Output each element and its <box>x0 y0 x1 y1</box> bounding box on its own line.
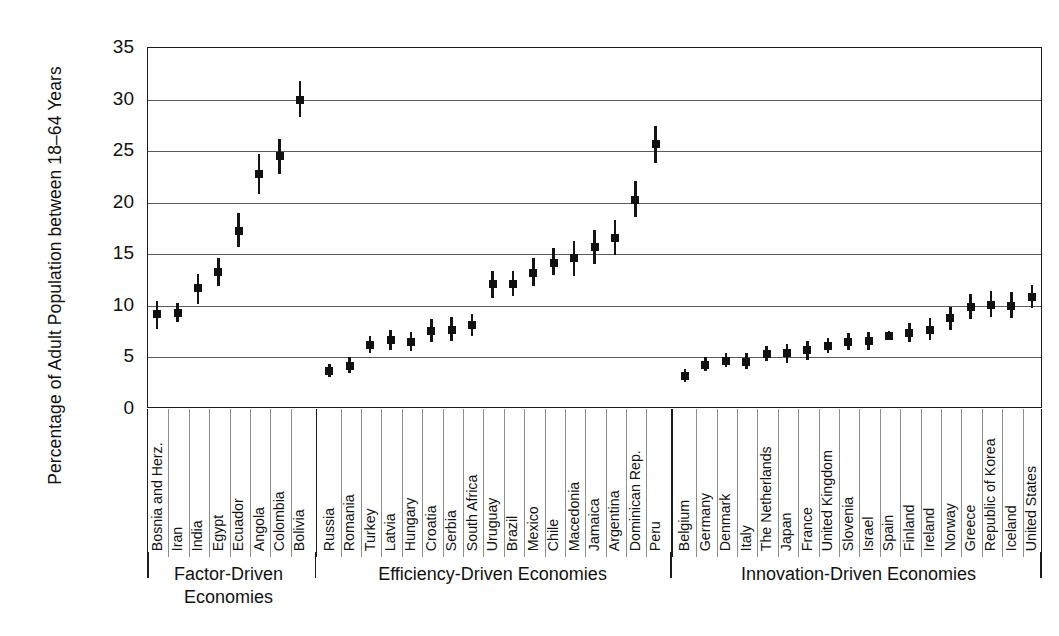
data-marks-layer <box>147 47 1042 408</box>
category-label-band: Bosnia and Herz.IranIndiaEgyptEcuadorAng… <box>147 409 1042 557</box>
group-boundary-tick <box>670 552 672 578</box>
axis-boundary-tick <box>147 552 149 578</box>
data-point-marker <box>550 259 558 267</box>
y-tick-label: 25 <box>82 139 134 161</box>
data-point-marker <box>1007 302 1015 310</box>
category-label: Turkey <box>362 508 376 551</box>
category-label: India <box>190 520 204 551</box>
data-point-marker <box>967 303 975 311</box>
y-tick-label: 35 <box>82 36 134 58</box>
category-label: Macedonia <box>566 482 580 551</box>
data-point-marker <box>631 196 639 204</box>
category-label: Finland <box>902 504 916 551</box>
data-point-marker <box>235 227 243 235</box>
category-label: Angola <box>251 507 265 551</box>
category-label: Slovenia <box>840 497 854 551</box>
category-label: Romania <box>342 494 356 551</box>
category-label: Egypt <box>211 515 225 551</box>
category-label: Dominican Rep. <box>627 450 641 551</box>
data-point-marker <box>448 326 456 334</box>
y-tick-label: 5 <box>82 345 134 367</box>
category-label: Chile <box>546 519 560 551</box>
data-point-marker <box>153 310 161 318</box>
category-label: Spain <box>881 515 895 551</box>
category-label: Argentina <box>607 490 621 551</box>
category-label: Croatia <box>424 505 438 551</box>
category-label: Ecuador <box>231 498 245 551</box>
category-label: United Kingdom <box>820 450 834 551</box>
category-label: Latvia <box>383 513 397 551</box>
data-point-marker <box>1028 293 1036 301</box>
data-point-marker <box>468 321 476 329</box>
group-label-innovation: Innovation-Driven Economies <box>688 563 1028 586</box>
data-point-marker <box>366 341 374 349</box>
category-label: Bolivia <box>292 509 306 551</box>
data-point-marker <box>783 349 791 357</box>
data-point-marker <box>844 338 852 346</box>
category-label: Mexico <box>526 506 540 551</box>
category-label: The Netherlands <box>759 446 773 551</box>
category-label: Germany <box>698 493 712 551</box>
data-point-marker <box>885 332 893 340</box>
category-label: South Africa <box>464 475 478 552</box>
category-label: Greece <box>963 504 977 551</box>
y-tick-label: 20 <box>82 191 134 213</box>
data-point-marker <box>255 170 263 178</box>
category-label: France <box>800 507 814 551</box>
data-point-marker <box>763 350 771 358</box>
axis-boundary-tick <box>1040 552 1042 578</box>
data-point-marker <box>214 268 222 276</box>
data-point-marker <box>946 314 954 322</box>
data-point-marker <box>570 254 578 262</box>
category-label: Iran <box>170 527 184 551</box>
category-label: Brazil <box>505 516 519 551</box>
data-point-marker <box>987 301 995 309</box>
y-tick-label: 15 <box>82 242 134 264</box>
data-point-marker <box>489 280 497 288</box>
data-point-marker <box>591 243 599 251</box>
data-point-marker <box>529 269 537 277</box>
data-point-marker <box>742 358 750 366</box>
category-label: Republic of Korea <box>983 438 997 551</box>
category-label: Serbia <box>444 510 458 551</box>
group-boundary-tick <box>315 552 317 578</box>
category-label: Israel <box>861 516 875 551</box>
group-separator <box>671 409 673 557</box>
category-label: Uruguay <box>485 497 499 551</box>
data-point-marker <box>276 152 284 160</box>
y-tick-label: 30 <box>82 88 134 110</box>
group-separator <box>316 409 318 557</box>
category-label: Denmark <box>718 493 732 551</box>
category-label: Hungary <box>403 497 417 551</box>
data-point-marker <box>407 338 415 346</box>
category-label: Peru <box>648 521 662 551</box>
data-point-marker <box>652 140 660 148</box>
data-point-marker <box>905 329 913 337</box>
data-point-marker <box>325 367 333 375</box>
data-point-marker <box>824 342 832 350</box>
data-point-marker <box>387 336 395 344</box>
data-point-marker <box>701 361 709 369</box>
category-label: Japan <box>779 512 793 551</box>
data-point-marker <box>722 357 730 365</box>
data-point-marker <box>296 96 304 104</box>
category-label: Ireland <box>922 508 936 551</box>
category-label: Iceland <box>1004 505 1018 551</box>
category-label: Bosnia and Herz. <box>149 442 163 551</box>
data-point-marker <box>803 346 811 354</box>
category-label: Colombia <box>272 491 286 551</box>
data-point-marker <box>681 372 689 380</box>
data-point-marker <box>346 362 354 370</box>
data-point-marker <box>865 337 873 345</box>
y-tick-label: 0 <box>82 397 134 419</box>
group-label-efficiency: Efficiency-Driven Economies <box>323 563 663 586</box>
category-label: Italy <box>738 525 752 551</box>
chart-figure: Percentage of Adult Population between 1… <box>0 0 1059 636</box>
category-label: Norway <box>942 503 956 551</box>
data-point-marker <box>611 234 619 242</box>
data-point-marker <box>509 280 517 288</box>
y-tick-label: 10 <box>82 294 134 316</box>
category-label: United States <box>1024 466 1038 551</box>
category-label: Russia <box>322 508 336 551</box>
category-label: Belgium <box>677 500 691 551</box>
